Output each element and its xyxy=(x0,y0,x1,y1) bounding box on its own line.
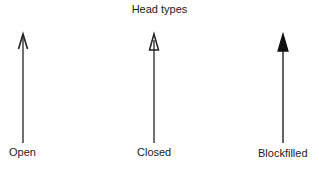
closed-label: Closed xyxy=(137,146,171,158)
open-arrow xyxy=(19,34,28,143)
blockfilled-label: Blockfilled xyxy=(258,147,308,159)
open-label: Open xyxy=(9,146,36,158)
closed-arrow xyxy=(150,34,159,143)
blockfilled-arrowhead-icon xyxy=(278,34,288,51)
blockfilled-arrow xyxy=(278,34,288,143)
